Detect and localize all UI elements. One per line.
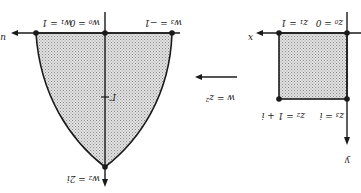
- z1-label: z₁ = 1: [281, 18, 309, 28]
- u-axis-arrow-icon: [11, 30, 18, 36]
- w3-point: [169, 30, 175, 36]
- z2-point: [276, 96, 282, 102]
- gamma-label: Γ: [109, 92, 117, 102]
- y-axis-arrow-icon: [344, 137, 350, 145]
- mapping-arrow-head-icon: [195, 74, 202, 80]
- v-axis-arrow-icon: [102, 179, 108, 187]
- w2-point: [102, 164, 108, 170]
- z3-point: [344, 96, 350, 102]
- w0-point: [102, 30, 108, 36]
- w2-label: w₂ = 2i: [67, 174, 100, 184]
- mapping-indicator: w = z²: [195, 74, 237, 103]
- u-axis-label: u: [0, 33, 6, 43]
- z-plane-panel: x y z₁ = 1 z₀ = 0 z₂ = 1 + i z₃ = i: [248, 12, 361, 166]
- figure-canvas: u Γ w₁ = 1 w₀ = 0 w₃ = −1 w₂ = 2i w = z²…: [0, 0, 361, 193]
- w-region-fill: [36, 33, 172, 167]
- mapping-label: w = z²: [205, 93, 235, 103]
- z0-point: [344, 30, 350, 36]
- z-square-fill: [279, 33, 347, 99]
- conformal-map-figure: u Γ w₁ = 1 w₀ = 0 w₃ = −1 w₂ = 2i w = z²…: [0, 0, 361, 193]
- z1-point: [276, 30, 282, 36]
- x-axis-arrow-icon: [256, 30, 263, 36]
- w1-label: w₁ = 1: [42, 18, 72, 28]
- z3-label: z₃ = i: [319, 111, 345, 121]
- z0-label: z₀ = 0: [315, 18, 344, 28]
- w-plane-panel: u Γ w₁ = 1 w₀ = 0 w₃ = −1 w₂ = 2i: [0, 12, 182, 187]
- w0-label: w₀ = 0: [69, 18, 100, 28]
- y-axis-label: y: [344, 156, 351, 166]
- x-axis-label: x: [248, 33, 253, 43]
- w1-point: [33, 30, 39, 36]
- z2-label: z₂ = 1 + i: [261, 111, 306, 121]
- w3-label: w₃ = −1: [144, 18, 182, 28]
